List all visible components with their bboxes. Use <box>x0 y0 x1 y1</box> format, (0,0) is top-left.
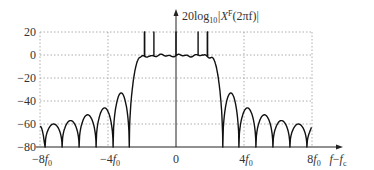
x-tick-label: −8f0 <box>32 152 52 168</box>
y-tick-label: −60 <box>17 117 36 131</box>
y-tick-label: 20 <box>24 25 36 39</box>
y-axis-arrow-icon <box>174 9 179 16</box>
axes <box>36 9 343 150</box>
y-tick-label: 0 <box>30 48 36 62</box>
spectrum-chart: 200−20−40−60−80−8f0−4f004f08f0f−fc20log1… <box>0 0 374 170</box>
x-tick-label: 0 <box>173 152 179 166</box>
y-tick-label: −40 <box>17 94 36 108</box>
y-tick-label: −20 <box>17 71 36 85</box>
axis-labels: 200−20−40−60−80−8f0−4f004f08f0f−fc20log1… <box>17 9 347 168</box>
x-axis-label: f−fc <box>329 152 346 168</box>
x-tick-label: −4f0 <box>100 152 120 168</box>
y-axis-label: 20log10|XF(2πf)| <box>182 9 259 25</box>
x-tick-label: 4f0 <box>239 152 252 168</box>
x-axis-arrow-icon <box>336 145 343 150</box>
x-tick-label: 8f0 <box>307 152 320 168</box>
